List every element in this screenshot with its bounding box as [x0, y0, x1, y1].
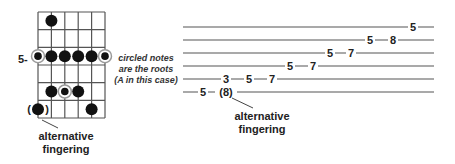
alt-fingering-label-right-2: fingering [238, 123, 285, 135]
roots-annotation: circled notes are the roots (A in this c… [114, 53, 178, 85]
tab-fret-number: 5 [287, 60, 293, 72]
fret-position-label: 5- [18, 53, 28, 65]
annotation-line-2: are the roots [119, 64, 174, 74]
tab-fret-number: 8 [390, 34, 396, 46]
root-note-dot [101, 52, 109, 60]
root-note-dot [34, 52, 42, 60]
tab-fret-number: 5 [410, 21, 416, 33]
note-dot [45, 15, 57, 27]
annotation-line-3: (A in this case) [114, 75, 178, 85]
tab-fret-number: 5 [246, 73, 252, 85]
alternative-note-dot [32, 103, 44, 115]
tab-fret-number: 5 [200, 86, 206, 98]
alt-fingering-label-left-2: fingering [42, 143, 89, 155]
note-dot [72, 50, 84, 62]
tab-fret-number: 7 [310, 60, 316, 72]
alt-fingering-pointer-right [232, 98, 253, 108]
note-dot [45, 50, 57, 62]
alt-fingering-label-left-1: alternative [38, 130, 93, 142]
tab-staff: 5(8)3575757585 [183, 21, 434, 98]
note-dot [72, 86, 84, 98]
note-dot [86, 103, 98, 115]
alt-fingering-pointer-left [42, 120, 58, 128]
tab-fret-number: 7 [269, 73, 275, 85]
paren-close: ) [45, 103, 49, 115]
fretboard-diagram: () [27, 12, 111, 118]
note-dot [86, 50, 98, 62]
scale-diagram: () 5- circled notes are the roots (A in … [0, 0, 455, 164]
tab-fret-number: (8) [219, 86, 233, 98]
tab-fret-number: 3 [223, 73, 229, 85]
paren-open: ( [27, 103, 31, 115]
annotation-line-1: circled notes [118, 53, 174, 63]
tab-fret-number: 5 [327, 47, 333, 59]
note-dot [59, 50, 71, 62]
tab-fret-number: 5 [367, 34, 373, 46]
tab-fret-number: 7 [348, 47, 354, 59]
alt-fingering-label-right-1: alternative [234, 110, 289, 122]
note-dot [45, 86, 57, 98]
root-note-dot [61, 88, 69, 96]
